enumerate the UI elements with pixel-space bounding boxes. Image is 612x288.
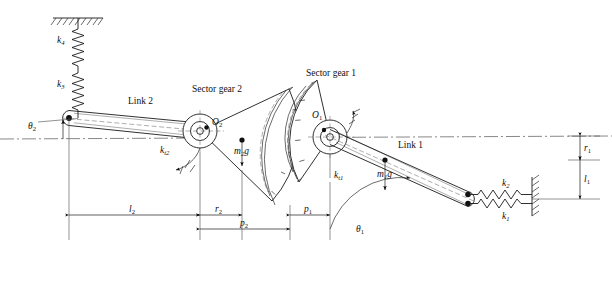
figure-canvas: k4 k3 Link 2 [0,0,612,288]
label-sector-gear-1: Sector gear 1 [306,68,356,78]
label-torsion-kt1: kt1 [334,170,343,181]
sector-gear-2 [200,87,298,205]
label-dim-r1: r1 [584,143,591,154]
spring-k2 [468,190,532,199]
ground-support-top [51,18,103,26]
label-dim-p2: p2 [239,218,248,229]
label-spring-k4: k4 [57,35,65,46]
label-dim-l1: l1 [584,174,590,185]
label-spring-k1: k1 [502,211,510,222]
label-spring-k3: k3 [57,79,65,90]
label-link-1: Link 1 [398,140,423,150]
spring-k1 [468,199,532,208]
label-theta2: θ2 [28,121,36,132]
label-dim-p1: p1 [303,204,312,215]
angle-theta1-indicator [330,177,410,229]
label-sector-gear-2: Sector gear 2 [192,84,242,94]
label-dim-l2: l2 [129,204,135,215]
spring-k4 [72,26,84,70]
torsion-spring-kt2 [176,148,200,174]
label-theta1: θ1 [356,224,364,235]
label-pivot-o2: O2 [212,117,222,128]
mechanism-schematic: k4 k3 Link 2 [0,0,612,288]
ground-support-right [532,175,539,216]
label-spring-k2: k2 [502,178,510,189]
label-link-2: Link 2 [128,96,153,106]
label-dim-r2: r2 [215,204,222,215]
label-torsion-kt2: kt2 [160,145,170,156]
